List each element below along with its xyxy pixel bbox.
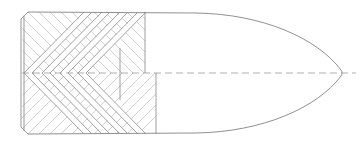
- technical-drawing-canvas: [0, 0, 361, 148]
- body-and-ogive-profile: [28, 12, 342, 134]
- section-hatch-upper: [0, 12, 259, 133]
- projectile-section-drawing: [0, 0, 361, 148]
- section-hatch-lower: [0, 13, 259, 134]
- projectile-outline: [28, 12, 342, 134]
